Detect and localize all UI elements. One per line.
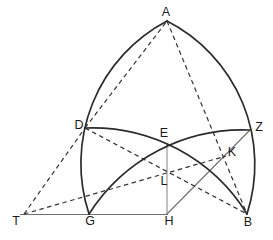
geometry-diagram: A D E Z K L T G H B — [0, 0, 273, 240]
inner-arc-G-E-Z — [89, 130, 250, 214]
point-label-G: G — [85, 215, 95, 228]
dashed-line-D-B — [85, 128, 247, 214]
point-label-Z: Z — [255, 121, 263, 134]
point-label-K: K — [228, 146, 236, 159]
point-label-H: H — [164, 215, 173, 228]
point-label-D: D — [74, 119, 83, 132]
point-label-E: E — [160, 127, 168, 140]
outer-arc-right-A-Z-B — [167, 21, 255, 214]
point-label-B: B — [244, 216, 252, 229]
diagram-canvas — [0, 0, 273, 240]
dashed-line-D-A — [85, 21, 167, 128]
dashed-line-T-D — [24, 128, 85, 214]
point-label-A: A — [162, 6, 170, 19]
point-label-T: T — [12, 215, 20, 228]
point-label-L: L — [161, 175, 168, 188]
